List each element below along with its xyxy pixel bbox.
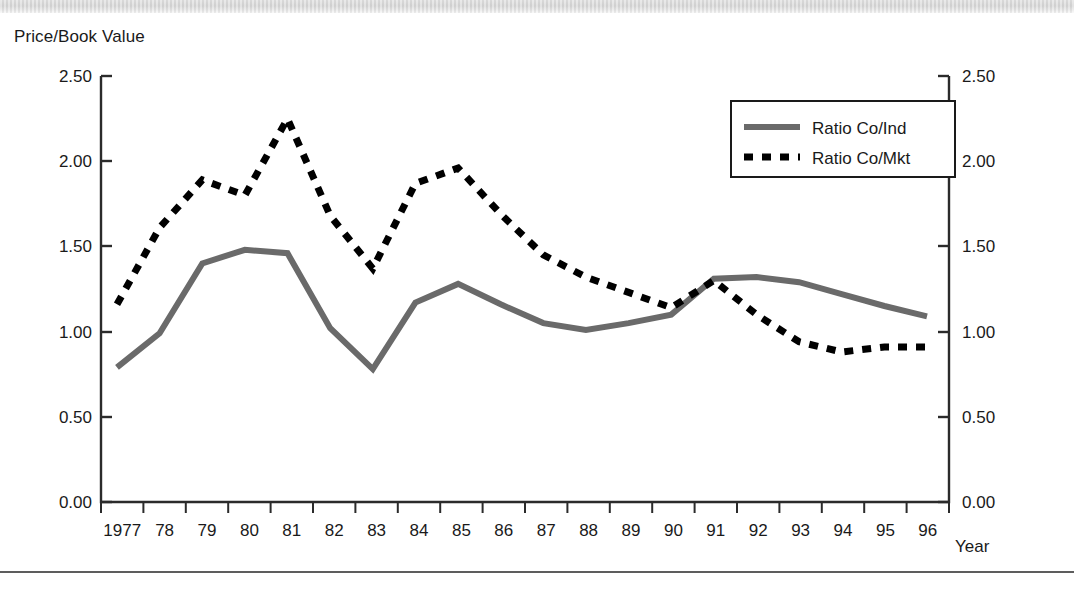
x-label-1980: 80 (240, 521, 259, 540)
y-label-right-3: 1.00 (962, 323, 995, 342)
legend-label-ratio-co-ind: Ratio Co/Ind (812, 119, 907, 138)
x-label-1988: 88 (579, 521, 598, 540)
x-label-1979: 79 (198, 521, 217, 540)
y-label-right-0: 2.50 (962, 67, 995, 86)
y-label-right-1: 2.00 (962, 152, 995, 171)
y-label-left-2: 1.50 (59, 237, 92, 256)
plot-area: 2.50 2.00 1.50 1.00 0.50 0.00 2.50 2.00 … (0, 0, 1074, 590)
x-label-1982: 82 (325, 521, 344, 540)
x-label-1985: 85 (452, 521, 471, 540)
y-label-right-2: 1.50 (962, 237, 995, 256)
legend: Ratio Co/Ind Ratio Co/Mkt (731, 101, 955, 177)
x-label-1991: 91 (706, 521, 725, 540)
x-label-1978: 78 (155, 521, 174, 540)
y-axis-right-labels: 2.50 2.00 1.50 1.00 0.50 0.00 (962, 67, 995, 512)
x-label-1977: 1977 (103, 521, 141, 540)
figure-bottom-rule (0, 571, 1074, 573)
y-label-left-3: 1.00 (59, 323, 92, 342)
y-axis-left-labels: 2.50 2.00 1.50 1.00 0.50 0.00 (59, 67, 92, 512)
y-label-left-0: 2.50 (59, 67, 92, 86)
y-label-left-5: 0.00 (59, 493, 92, 512)
x-axis-labels: 1977787980818283848586878889909192939495… (103, 521, 937, 540)
legend-label-ratio-co-mkt: Ratio Co/Mkt (812, 149, 911, 168)
chart-figure: Price/Book Value 2.50 2.00 1 (0, 0, 1074, 590)
series-line-ratio-co-ind (117, 250, 927, 369)
x-label-1989: 89 (622, 521, 641, 540)
y-axis-left-ticks (101, 76, 112, 502)
x-label-1987: 87 (537, 521, 556, 540)
x-axis-label: Year (955, 537, 989, 557)
x-label-1996: 96 (918, 521, 937, 540)
x-label-1990: 90 (664, 521, 683, 540)
x-axis-ticks (101, 502, 949, 513)
x-label-1983: 83 (367, 521, 386, 540)
x-label-1993: 93 (791, 521, 810, 540)
y-label-left-4: 0.50 (59, 408, 92, 427)
y-label-right-5: 0.00 (962, 493, 995, 512)
x-label-1984: 84 (410, 521, 429, 540)
x-label-1981: 81 (282, 521, 301, 540)
x-label-1986: 86 (494, 521, 513, 540)
x-label-1995: 95 (876, 521, 895, 540)
x-label-1994: 94 (834, 521, 853, 540)
x-label-1992: 92 (749, 521, 768, 540)
y-label-right-4: 0.50 (962, 408, 995, 427)
y-label-left-1: 2.00 (59, 152, 92, 171)
